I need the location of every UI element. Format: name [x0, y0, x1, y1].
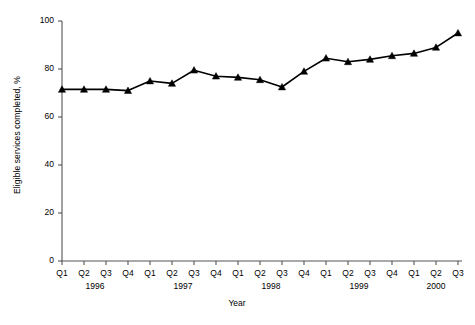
x-tick-label: Q4 [380, 268, 404, 278]
x-tick-label: Q3 [358, 268, 382, 278]
x-tick-label: Q3 [270, 268, 294, 278]
x-tick-label: Q2 [248, 268, 272, 278]
x-tick-label: Q1 [226, 268, 250, 278]
year-label: 1998 [251, 281, 291, 291]
year-label: 1999 [339, 281, 379, 291]
x-tick-label: Q4 [204, 268, 228, 278]
x-tick-label: Q4 [116, 268, 140, 278]
year-label: 1996 [75, 281, 115, 291]
y-tick-label: 80 [28, 63, 54, 73]
x-tick-label: Q2 [72, 268, 96, 278]
x-tick-label: Q4 [292, 268, 316, 278]
chart-figure: Eligible services completed, % 020406080… [0, 0, 475, 325]
y-tick-label: 20 [28, 207, 54, 217]
y-tick-label: 60 [28, 111, 54, 121]
y-axis-title-text: Eligible services completed, % [12, 76, 22, 194]
y-tick-label: 40 [28, 159, 54, 169]
x-tick-label: Q2 [336, 268, 360, 278]
data-point-marker [432, 44, 439, 50]
data-point-marker [454, 29, 461, 35]
data-point-marker [300, 68, 307, 74]
x-tick-label: Q1 [50, 268, 74, 278]
y-axis-title: Eligible services completed, % [6, 0, 28, 270]
x-tick-label: Q1 [402, 268, 426, 278]
x-tick-label: Q1 [138, 268, 162, 278]
x-tick-label: Q3 [446, 268, 470, 278]
x-tick-label: Q1 [314, 268, 338, 278]
x-tick-label: Q2 [160, 268, 184, 278]
y-tick-label: 100 [28, 15, 54, 25]
x-tick-label: Q3 [182, 268, 206, 278]
year-label: 1997 [163, 281, 203, 291]
year-label: 2000 [416, 281, 456, 291]
x-tick-label: Q2 [424, 268, 448, 278]
x-axis-title: Year [207, 298, 267, 308]
y-tick-label: 0 [28, 255, 54, 265]
data-point-marker [190, 67, 197, 73]
x-tick-label: Q3 [94, 268, 118, 278]
